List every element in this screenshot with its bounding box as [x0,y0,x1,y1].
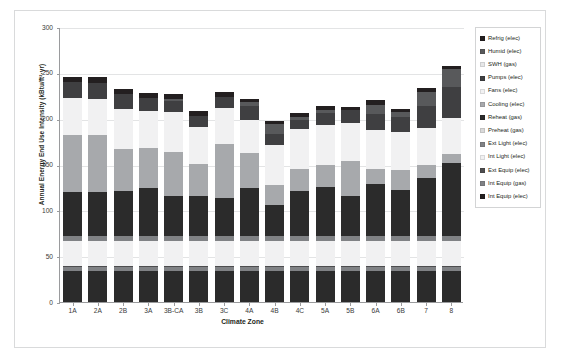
bar-segment [114,94,133,109]
bar-segment [442,154,461,162]
legend-label: Preheat (gas) [488,128,524,134]
bar-segment [215,271,234,302]
bar-segment [139,271,158,302]
bar-6A[interactable] [366,100,385,302]
x-tick-mark [98,303,99,306]
bar-3A[interactable] [139,93,158,302]
legend-swatch-icon [480,168,485,173]
legend-label: Humid (elec) [488,49,521,55]
y-tick-mark [57,74,60,75]
bar-segment [215,97,234,108]
bar-segment [341,241,360,267]
bar-4C[interactable] [290,113,309,302]
bar-segment [215,241,234,267]
bar-2A[interactable] [88,77,107,302]
bar-segment [164,152,183,196]
bar-segment [316,125,335,164]
x-tick-mark [350,303,351,306]
bar-segment [391,132,410,171]
bar-segment [265,124,284,134]
bar-segment [341,196,360,236]
bar-5A[interactable] [316,106,335,302]
bar-segment [139,98,158,112]
bar-segment [215,108,234,145]
x-tick-mark [300,303,301,306]
legend-item[interactable]: Humid (elec) [480,45,537,58]
legend-item[interactable]: Cooling (elec) [480,98,537,111]
bar-segment [240,120,259,153]
bar-segment [215,198,234,237]
plot-area: 050100150200250300 1A2A2B3A3B-CA3B3C4A4B… [59,28,463,303]
chart-legend: Refrig (elec)Humid (elec)SWH (gas)Pumps … [475,27,541,208]
legend-label: Pumps (elec) [488,75,523,81]
bar-segment [164,196,183,236]
bar-segment [316,271,335,302]
legend-swatch-icon [480,181,485,186]
legend-item[interactable]: SWH (gas) [480,58,537,71]
legend-swatch-icon [480,76,485,81]
bar-segment [189,196,208,236]
legend-item[interactable]: Int Light (elec) [480,151,537,164]
legend-item[interactable]: Pumps (elec) [480,72,537,85]
legend-item[interactable]: Int Equip (gas) [480,177,537,190]
x-tick-mark [123,303,124,306]
bar-segment [417,128,436,166]
x-tick-mark [376,303,377,306]
bar-segment [391,241,410,267]
bar-segment [63,82,82,98]
bar-4A[interactable] [240,99,259,302]
bar-segment [366,105,385,114]
bar-1A[interactable] [63,77,82,302]
x-axis-title: Climate Zone [15,318,470,325]
x-tick-mark [325,303,326,306]
bar-segment [341,110,360,123]
legend-label: Cooling (elec) [488,102,524,108]
bar-segment [189,127,208,164]
bar-2B[interactable] [114,89,133,303]
y-tick-label: 200 [29,116,53,123]
legend-label: Int Light (elec) [488,154,525,160]
legend-swatch-icon [480,49,485,54]
bar-segment [189,116,208,127]
bar-segment [316,113,335,125]
bar-5B[interactable] [341,107,360,302]
bar-segment [442,271,461,302]
legend-swatch-icon [480,36,485,41]
bar-6B[interactable] [391,109,410,302]
bar-segment [290,271,309,302]
bar-segment [63,241,82,267]
legend-swatch-icon [480,194,485,199]
legend-label: Fans (elec) [488,88,517,94]
bar-segment [442,118,461,155]
legend-item[interactable]: Preheat (gas) [480,124,537,137]
bar-8[interactable] [442,66,461,302]
bar-segment [265,241,284,267]
bar-segment [290,120,309,129]
y-tick-label: 100 [29,208,53,215]
y-tick-mark [57,28,60,29]
legend-item[interactable]: Ext Light (elec) [480,138,537,151]
bar-segment [417,165,436,178]
legend-item[interactable]: Reheat (gas) [480,111,537,124]
bar-3B-CA[interactable] [164,94,183,302]
bar-segment [290,129,309,169]
bar-segment [164,241,183,267]
bar-3B[interactable] [189,111,208,302]
bar-segment [442,163,461,236]
bar-4B[interactable] [265,121,284,302]
bar-segment [240,106,259,120]
bar-segment [290,169,309,191]
bar-3C[interactable] [215,92,234,302]
legend-item[interactable]: Refrig (elec) [480,32,537,45]
x-tick-mark [148,303,149,306]
legend-item[interactable]: Ext Equip (elec) [480,164,537,177]
bar-segment [366,184,385,236]
bar-segment [88,192,107,236]
legend-item[interactable]: Int Equip (elec) [480,190,537,203]
y-tick-label: 250 [29,70,53,77]
bar-segment [442,241,461,267]
bar-segment [189,271,208,302]
legend-item[interactable]: Fans (elec) [480,85,537,98]
bar-segment [139,241,158,267]
bar-7[interactable] [417,88,436,302]
